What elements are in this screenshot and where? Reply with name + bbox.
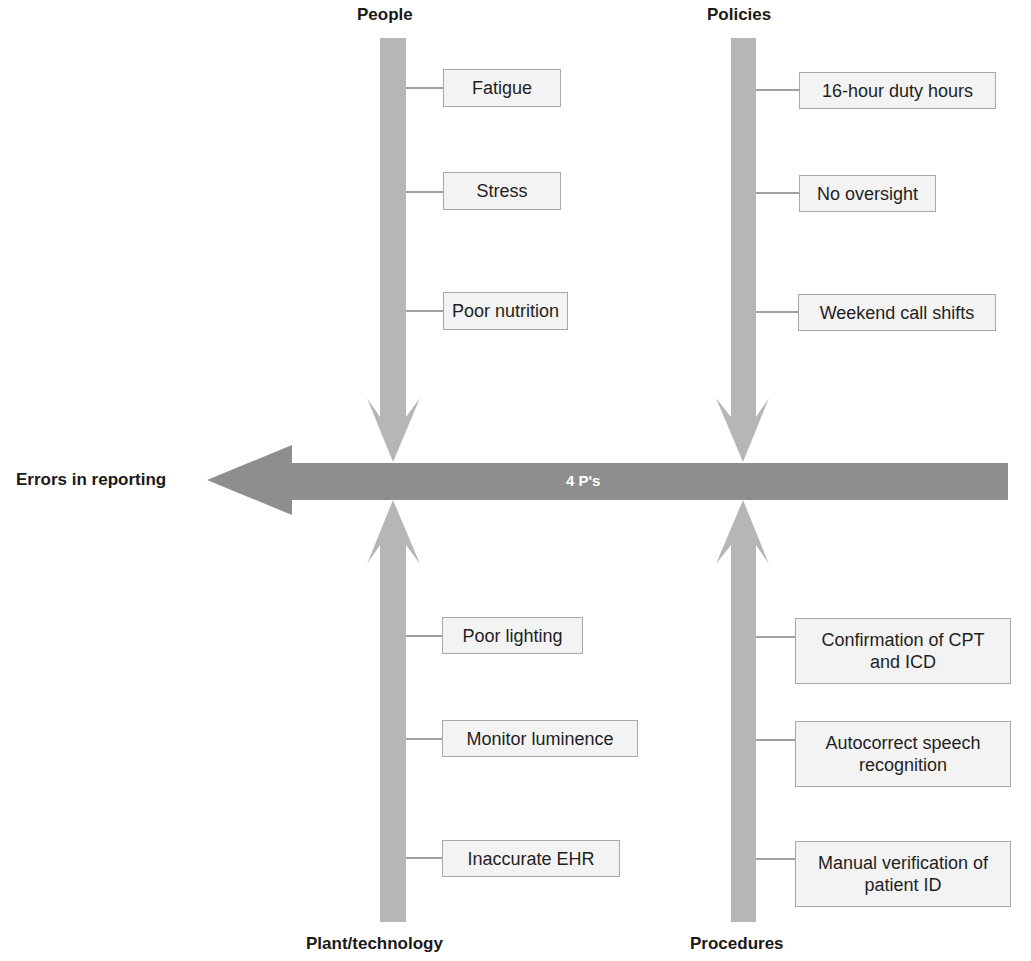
spine-arrow xyxy=(207,445,1008,515)
connector-line xyxy=(756,192,799,194)
connector-line xyxy=(406,87,443,89)
category-label-policies: Policies xyxy=(707,5,771,25)
cause-box-poor-lighting: Poor lighting xyxy=(442,617,583,654)
connector-line xyxy=(406,191,443,193)
effect-label: Errors in reporting xyxy=(16,470,166,490)
cause-box-confirmation-of-cpt-and-icd: Confirmation of CPT and ICD xyxy=(795,618,1011,684)
people-bone-arrow xyxy=(367,38,420,462)
category-label-procedures: Procedures xyxy=(690,934,784,954)
cause-box-monitor-luminence: Monitor luminence xyxy=(442,720,638,757)
policies-bone-arrow xyxy=(716,38,769,462)
connector-line xyxy=(406,738,442,740)
connector-line xyxy=(756,311,799,313)
spine-label: 4 P's xyxy=(566,472,600,489)
cause-box-poor-nutrition: Poor nutrition xyxy=(443,292,568,330)
cause-box-inaccurate-ehr: Inaccurate EHR xyxy=(442,840,620,877)
category-label-people: People xyxy=(357,5,413,25)
cause-box-no-oversight: No oversight xyxy=(799,175,936,212)
connector-line xyxy=(406,857,442,859)
category-label-plant-technology: Plant/technology xyxy=(306,934,443,954)
connector-line xyxy=(406,635,442,637)
connector-line xyxy=(756,858,795,860)
connector-line xyxy=(756,739,795,741)
cause-box-16-hour-duty-hours: 16-hour duty hours xyxy=(799,72,996,109)
cause-box-fatigue: Fatigue xyxy=(443,69,561,107)
cause-box-weekend-call-shifts: Weekend call shifts xyxy=(798,294,996,331)
connector-line xyxy=(406,310,443,312)
cause-box-autocorrect-speech-recognition: Autocorrect speech recognition xyxy=(795,721,1011,787)
connector-line xyxy=(756,636,795,638)
cause-box-stress: Stress xyxy=(443,172,561,210)
cause-box-manual-verification-of-patient-id: Manual verification of patient ID xyxy=(795,841,1011,907)
connector-line xyxy=(756,89,799,91)
